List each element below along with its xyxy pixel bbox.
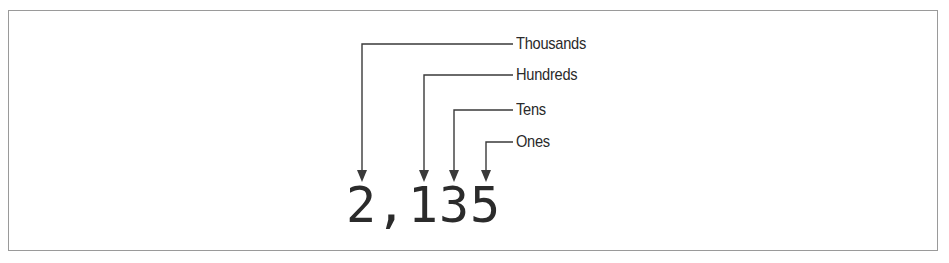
digit-ones: 5 <box>470 180 500 230</box>
thousands-connector-arrow <box>362 44 513 178</box>
digit-tens: 3 <box>439 180 469 230</box>
digit-thousands: 2 <box>346 180 376 230</box>
tens-connector-arrow <box>454 110 513 178</box>
thousands-separator-comma: , <box>376 180 406 230</box>
ones-connector-arrow <box>486 142 513 178</box>
label-thousands: Thousands <box>516 35 586 52</box>
label-hundreds: Hundreds <box>516 66 577 83</box>
hundreds-connector-arrow <box>424 75 513 178</box>
label-ones: Ones <box>516 133 550 150</box>
digit-hundreds: 1 <box>408 180 438 230</box>
label-tens: Tens <box>516 101 546 118</box>
